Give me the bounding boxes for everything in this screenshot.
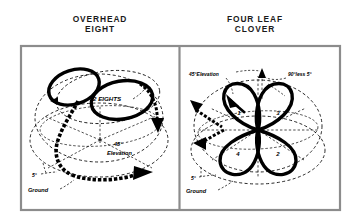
panel-title-overhead-eight-line1: OVERHEAD [73, 14, 128, 24]
label-clover-elevation: 45°Elevation [188, 71, 219, 77]
clover-leaf-number-4: 4 [235, 151, 240, 157]
panel-title-overhead-eight-line2: EIGHT [85, 24, 115, 34]
panel-title-four-leaf-clover-line1: FOUR LEAF [227, 14, 283, 24]
canvas-background [0, 0, 353, 223]
label-clover-ground: Ground [186, 188, 207, 194]
label-ground: Ground [28, 187, 49, 193]
maneuver-diagram: OVERHEAD EIGHT FOUR LEAF CLOVER [0, 0, 353, 223]
label-elevation-word: Elevation [107, 150, 132, 156]
label-elevation-degrees: 45° [113, 141, 123, 147]
label-clover-complement: 90°less 5° [288, 71, 312, 77]
panel-title-four-leaf-clover-line2: CLOVER [235, 24, 275, 34]
label-two-eights: 2 EIGHTS [92, 95, 122, 102]
clover-leaf-number-2: 2 [275, 151, 280, 157]
